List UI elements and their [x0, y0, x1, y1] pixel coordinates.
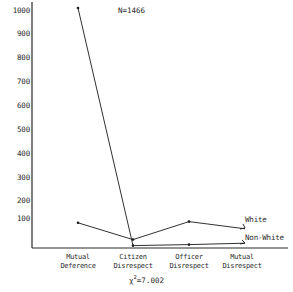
- arrowhead-white-upper: [243, 224, 245, 228]
- plot-area: [0, 0, 293, 292]
- data-point-white-1: [77, 222, 80, 225]
- x-axis-tick-mutual-disrespect-line2: Disrespect: [207, 262, 277, 271]
- x-axis-tick-mutual-disrespect-line1: Mutual: [207, 253, 277, 262]
- data-point-nonwhite-3: [188, 243, 191, 246]
- data-point-nonwhite-1: [77, 7, 80, 10]
- chi-square-annotation: χ2=7.002: [0, 274, 293, 285]
- series-line-white: [78, 222, 245, 240]
- sample-size-annotation: N=1466: [118, 6, 145, 15]
- chi-square-value: =7.002: [137, 276, 164, 285]
- legend-label-white: White: [245, 215, 267, 224]
- chart-figure: 1000 900 800 700 600 500 400 300 200 100…: [0, 0, 293, 292]
- data-point-white-2: [132, 238, 135, 241]
- series-line-nonwhite: [78, 8, 245, 246]
- x-axis-tick-mutual-disrespect: Mutual Disrespect: [207, 253, 277, 270]
- data-point-white-3: [188, 220, 191, 223]
- data-point-nonwhite-2: [132, 244, 135, 247]
- legend-label-nonwhite: Non-White: [245, 233, 284, 242]
